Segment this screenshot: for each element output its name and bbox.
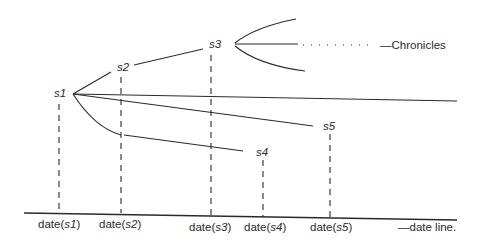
date-line xyxy=(24,213,457,220)
state-label-s3: s3 xyxy=(209,39,221,51)
state-label-s1: s1 xyxy=(54,88,66,100)
state-label-s5: s5 xyxy=(323,121,335,133)
edge-s1-s5 xyxy=(73,94,313,126)
edge-s1-s2 xyxy=(73,72,111,94)
state-label-s4: s4 xyxy=(256,147,268,159)
state-label-s2: s2 xyxy=(117,62,129,74)
edge-s1-s4-curve xyxy=(73,94,121,135)
chronicles-label: —Chronicles xyxy=(380,40,446,52)
branch-s3-upper xyxy=(235,19,296,43)
date-label-s5: date(s5) xyxy=(310,222,352,234)
edge-s1-long xyxy=(73,94,457,101)
chronicle-diagram xyxy=(0,0,480,245)
date-label-s2: date(s2) xyxy=(99,219,141,231)
date-line-label: —date line. xyxy=(398,222,456,234)
branch-s3-lower xyxy=(235,46,305,71)
date-label-s3: date(s3) xyxy=(189,222,231,234)
edge-s2-s3 xyxy=(134,49,203,65)
date-label-s1: date(s1) xyxy=(38,219,80,231)
edge-s1-s4 xyxy=(124,135,243,151)
date-label-s4: date(s4) xyxy=(244,222,286,234)
